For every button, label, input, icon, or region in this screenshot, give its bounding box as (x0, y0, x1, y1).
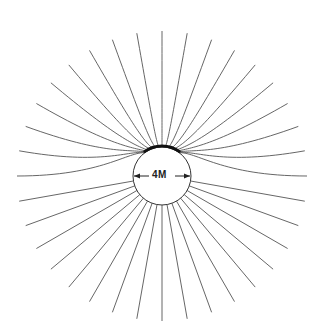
field-line (137, 33, 159, 148)
field-line (178, 153, 307, 176)
field-line (19, 181, 133, 201)
field-line (189, 186, 298, 226)
field-lines-diagram (0, 0, 321, 332)
diameter-label: 4M (152, 169, 167, 180)
field-line (168, 40, 212, 149)
field-line (26, 186, 135, 226)
field-line (165, 33, 187, 148)
field-line (187, 191, 288, 249)
field-line (184, 195, 273, 270)
field-line (17, 153, 146, 176)
field-line (176, 104, 288, 152)
field-line (112, 40, 156, 149)
field-line (112, 203, 152, 312)
field-line (177, 201, 235, 302)
field-line (51, 83, 150, 151)
field-line (69, 198, 144, 287)
field-line (191, 181, 305, 201)
field-line (137, 205, 157, 319)
field-line (181, 198, 256, 287)
field-line (51, 195, 140, 270)
field-line (167, 205, 187, 319)
field-line (36, 104, 148, 152)
field-line (90, 201, 148, 302)
field-line (36, 191, 136, 249)
field-line (172, 203, 212, 312)
field-line (174, 83, 273, 151)
